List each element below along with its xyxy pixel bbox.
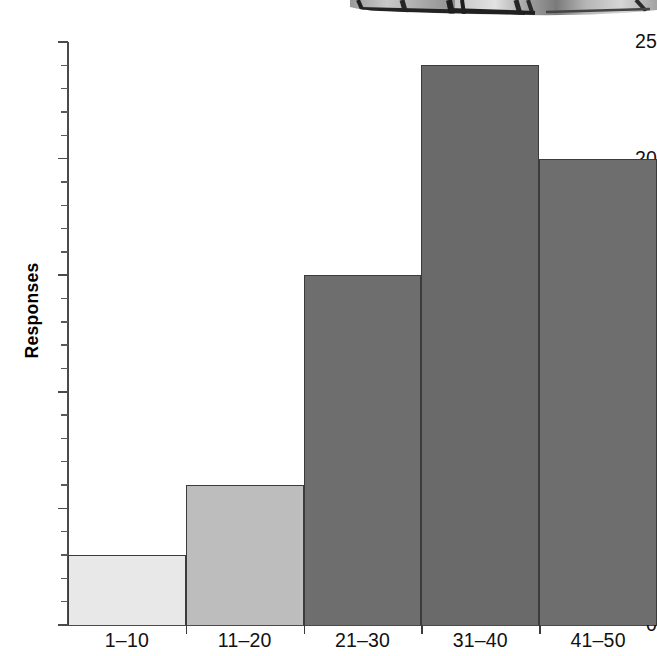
y-axis-minor-tick <box>61 531 68 532</box>
x-axis-category-divider <box>539 625 541 634</box>
y-axis-minor-tick <box>61 578 68 579</box>
y-axis-minor-tick <box>61 181 68 182</box>
y-axis-major-tick <box>58 624 68 626</box>
x-axis-tick-label: 31–40 <box>421 631 539 651</box>
x-axis-tick-label: 1–10 <box>68 631 186 651</box>
y-axis-major-tick <box>58 508 68 510</box>
bar-31-40 <box>421 65 539 625</box>
x-axis-tick-label: 41–50 <box>539 631 657 651</box>
bar-11-20 <box>186 485 304 625</box>
bar-1-10 <box>68 555 186 625</box>
y-axis-minor-tick <box>61 228 68 229</box>
y-axis-major-tick <box>58 158 68 160</box>
y-axis-minor-tick <box>61 414 68 415</box>
x-axis-category-divider <box>186 625 188 634</box>
y-axis-minor-tick <box>61 321 68 322</box>
y-axis-major-tick <box>58 391 68 393</box>
y-axis-minor-tick <box>61 601 68 602</box>
y-axis-minor-tick <box>61 368 68 369</box>
y-axis-minor-tick <box>61 484 68 485</box>
y-axis-minor-tick <box>61 205 68 206</box>
y-axis-title: Responses <box>22 231 43 391</box>
y-axis-minor-tick <box>61 461 68 462</box>
y-axis-major-tick <box>58 274 68 276</box>
bar-21-30 <box>304 275 422 625</box>
y-axis-minor-tick <box>61 65 68 66</box>
y-axis-minor-tick <box>61 344 68 345</box>
y-axis-minor-tick <box>61 111 68 112</box>
y-axis-minor-tick <box>61 251 68 252</box>
x-axis-tick-label: 21–30 <box>304 631 422 651</box>
x-axis-tick-label: 11–20 <box>186 631 304 651</box>
y-axis-minor-tick <box>61 554 68 555</box>
x-axis-category-divider <box>421 625 423 634</box>
bar-41-50 <box>539 159 657 625</box>
y-axis-minor-tick <box>61 88 68 89</box>
y-axis-major-tick <box>58 41 68 43</box>
y-axis-minor-tick <box>61 135 68 136</box>
bar-chart: Responses 0510152025 1–1011–2021–3031–40… <box>0 0 657 656</box>
plot-area <box>68 42 657 625</box>
y-axis-minor-tick <box>61 298 68 299</box>
y-axis-minor-tick <box>61 438 68 439</box>
x-axis-category-divider <box>304 625 306 634</box>
